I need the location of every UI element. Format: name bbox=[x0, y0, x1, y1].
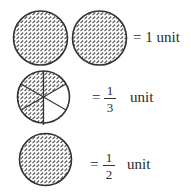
denominator: 3 bbox=[104, 101, 116, 114]
fraction-bar bbox=[103, 165, 115, 166]
equals-sign-half: = bbox=[90, 157, 98, 172]
full-circle-1 bbox=[14, 11, 68, 65]
equals-sign-third: = bbox=[92, 90, 100, 105]
unit-text-third: unit bbox=[130, 90, 153, 105]
value-one: 1 bbox=[145, 29, 153, 45]
unit-text-half: unit bbox=[127, 157, 150, 172]
label-one-unit: = 1 unit bbox=[133, 30, 180, 45]
sector-circle bbox=[18, 71, 70, 125]
full-circle-2 bbox=[73, 11, 127, 65]
numerator: 1 bbox=[104, 84, 116, 97]
fraction-bar bbox=[104, 98, 116, 99]
equals-sign: = bbox=[133, 29, 141, 45]
full-circle-3 bbox=[20, 134, 72, 186]
fraction-one-third: 1 3 bbox=[104, 84, 116, 114]
numerator: 1 bbox=[103, 151, 115, 164]
denominator: 2 bbox=[103, 168, 115, 181]
fraction-one-half: 1 2 bbox=[103, 151, 115, 181]
unit-text: unit bbox=[156, 29, 179, 45]
